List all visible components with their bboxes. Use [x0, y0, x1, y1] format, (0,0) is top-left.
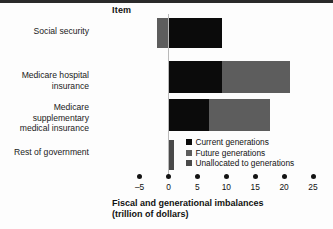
x-axis-tick-marker	[224, 174, 229, 179]
category-label: Medicare supplementary medical insurance	[0, 102, 89, 134]
chart-figure: Item Social securityMedicare hospital in…	[0, 0, 333, 229]
plot-area: Social securityMedicare hospital insuran…	[0, 0, 333, 229]
legend-item: Future generations	[186, 148, 294, 158]
x-axis-tick-marker	[282, 174, 287, 179]
x-axis-tick-marker	[195, 174, 200, 179]
bar-segment	[169, 140, 175, 170]
legend-item: Current generations	[186, 137, 294, 147]
x-axis-tick-marker	[137, 174, 142, 179]
x-axis-tick-label: 25	[300, 182, 326, 192]
legend-label: Unallocated to generations	[196, 158, 295, 168]
x-axis-tick-marker	[166, 174, 171, 179]
category-label: Medicare hospital insurance	[0, 70, 89, 91]
item-column-header: Item	[112, 5, 131, 15]
bar-segment	[222, 61, 290, 93]
legend-label: Future generations	[196, 148, 266, 158]
bar-segment	[169, 61, 223, 93]
x-axis-tick-marker	[311, 174, 316, 179]
x-axis-tick-marker	[253, 174, 258, 179]
x-axis-tick-label: 0	[156, 182, 182, 192]
x-axis-title: Fiscal and generational imbalances (tril…	[112, 198, 264, 220]
category-label: Rest of government	[14, 147, 89, 158]
category-label: Social security	[34, 26, 89, 37]
x-axis-tick-label: 15	[242, 182, 268, 192]
chart-legend: Current generations Future generations U…	[186, 137, 294, 169]
x-axis-tick-label: 20	[271, 182, 297, 192]
bar-segment	[157, 18, 169, 48]
legend-swatch-unallocated-to-generations	[186, 160, 192, 166]
bar-segment	[169, 18, 223, 48]
legend-label: Current generations	[196, 137, 269, 147]
legend-swatch-current-generations	[186, 139, 192, 145]
x-axis-tick-label: 5	[184, 182, 210, 192]
legend-item: Unallocated to generations	[186, 158, 294, 168]
legend-swatch-future-generations	[186, 150, 192, 156]
x-axis-tick-label: –5	[127, 182, 153, 192]
x-axis-tick-label: 10	[213, 182, 239, 192]
bar-segment	[209, 99, 270, 131]
bar-segment	[169, 99, 209, 131]
top-edge-band	[0, 0, 333, 3]
zero-axis-line	[168, 14, 169, 179]
